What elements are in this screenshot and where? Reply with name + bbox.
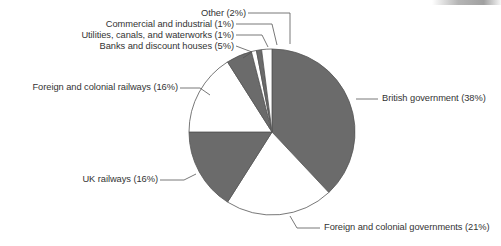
pie-label-foreign-and-colonial-railways: Foreign and colonial railways (16%)	[15, 82, 178, 93]
leader-line-foreign-and-colonial-governments	[290, 216, 320, 228]
pie-chart-figure: Other (2%) Commercial and industrial (1%…	[0, 0, 501, 246]
pie-slices-group	[189, 49, 355, 215]
pie-label-uk-railways: UK railways (16%)	[58, 174, 158, 185]
pie-label-foreign-and-colonial-governments: Foreign and colonial governments (21%)	[324, 222, 490, 233]
leader-line-commercial-and-industrial	[236, 24, 277, 45]
pie-label-utilities-canals-waterworks: Utilities, canals, and waterworks (1%)	[32, 30, 234, 41]
leader-line-utilities-canals-waterworks	[236, 35, 268, 47]
pie-label-commercial-and-industrial: Commercial and industrial (1%)	[32, 19, 234, 30]
pie-label-banks-and-discount-houses: Banks and discount houses (5%)	[32, 41, 234, 52]
pie-label-other: Other (2%)	[32, 8, 246, 19]
pie-label-british-government: British government (38%)	[382, 93, 486, 104]
leader-line-other	[248, 13, 290, 44]
leader-line-uk-railways	[160, 174, 196, 180]
